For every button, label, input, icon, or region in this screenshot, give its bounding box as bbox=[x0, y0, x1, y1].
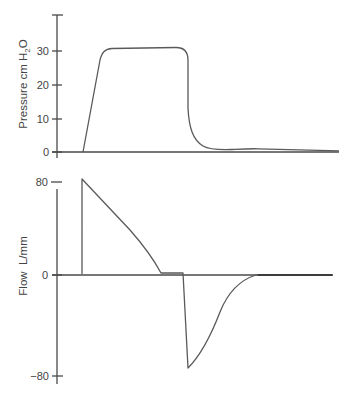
ventilator-waveforms-figure: 30 20 10 0 Pressure cm H2O 80 0 −80 Flow… bbox=[0, 0, 349, 408]
flow-axis-title: Flow L/mm bbox=[17, 236, 29, 295]
pressure-tick-label-10: 10 bbox=[37, 113, 49, 125]
pressure-panel: 30 20 10 0 Pressure cm H2O bbox=[17, 15, 339, 158]
pressure-tick-label-20: 20 bbox=[37, 79, 49, 91]
pressure-axis-title: Pressure cm H2O bbox=[17, 39, 32, 129]
flow-tick-label-minus-80: −80 bbox=[30, 370, 49, 382]
flow-tick-label-80: 80 bbox=[36, 176, 48, 188]
flow-trace bbox=[82, 179, 333, 368]
flow-tick-label-0: 0 bbox=[42, 269, 48, 281]
pressure-tick-label-0: 0 bbox=[43, 146, 49, 158]
flow-panel: 80 0 −80 Flow L/mm bbox=[17, 176, 333, 384]
pressure-trace bbox=[83, 48, 339, 153]
pressure-tick-label-30: 30 bbox=[37, 45, 49, 57]
